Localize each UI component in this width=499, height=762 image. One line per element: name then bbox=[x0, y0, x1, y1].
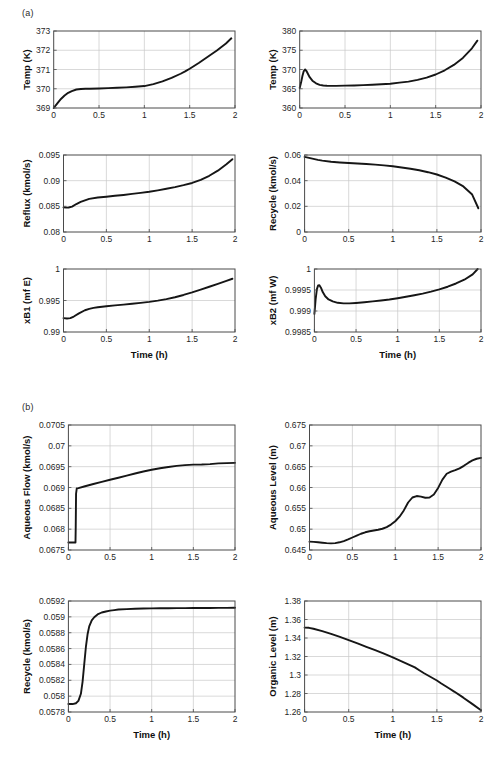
x-tick-label: 1.5 bbox=[186, 334, 198, 344]
y-axis-title: Reflux (kmol/s) bbox=[21, 159, 32, 227]
y-tick-label: 1 bbox=[55, 264, 60, 274]
x-tick-label: 0.5 bbox=[343, 234, 355, 244]
y-tick-label: 0.068 bbox=[44, 524, 66, 534]
x-tick-label: 2 bbox=[233, 234, 238, 244]
y-tick-label: 0.095 bbox=[39, 150, 61, 160]
figure-container: (a) (b) 00.511.52369370371372373Temp (K)… bbox=[0, 0, 499, 762]
series-recycle bbox=[305, 157, 479, 208]
y-tick-label: 0.0695 bbox=[39, 462, 65, 472]
panel-label-a: (a) bbox=[22, 8, 34, 18]
chart-xb1-mf-e: 00.511.520.990.9951xB1 (mf E)Time (h) bbox=[20, 262, 240, 362]
subplot-xb2: 00.511.520.99850.9990.99951xB2 (mf W)Tim… bbox=[266, 262, 486, 362]
subplot-reflux: 00.511.520.080.0850.090.095Reflux (kmol/… bbox=[20, 148, 240, 248]
tick-labels: 00.511.52369370371372373 bbox=[36, 26, 238, 120]
panel-label-b: (b) bbox=[22, 402, 34, 412]
x-tick-label: 1.5 bbox=[187, 552, 199, 562]
x-tick-label: 2 bbox=[233, 714, 238, 724]
y-axis-title: Recycle (kmol/s) bbox=[21, 619, 32, 694]
y-tick-label: 0.9995 bbox=[285, 285, 311, 295]
x-tick-label: 0.5 bbox=[339, 110, 351, 120]
series-temp bbox=[54, 38, 232, 108]
y-tick-label: 0.0584 bbox=[39, 659, 65, 669]
x-tick-label: 0 bbox=[66, 552, 71, 562]
chart-temp-k-left: 00.511.52369370371372373Temp (K) bbox=[20, 24, 240, 124]
y-tick-label: 0.02 bbox=[285, 201, 302, 211]
y-tick-label: 0.069 bbox=[44, 483, 66, 493]
tick-labels: 00.511.520.6450.650.6550.660.6650.670.67… bbox=[285, 420, 484, 562]
y-tick-label: 373 bbox=[36, 26, 50, 36]
subplot-recycle-a: 00.511.5200.020.040.06Recycle (kmol/s) bbox=[266, 148, 486, 248]
x-axis-title: Time (h) bbox=[131, 349, 168, 360]
y-tick-label: 0.0705 bbox=[39, 420, 65, 430]
chart-organic-level-m: 00.511.521.261.281.31.321.341.361.38Orga… bbox=[266, 594, 486, 742]
x-tick-label: 2 bbox=[479, 552, 484, 562]
tick-labels: 00.511.52360365370375380 bbox=[282, 26, 484, 120]
x-tick-label: 0.5 bbox=[104, 552, 116, 562]
x-tick-label: 2 bbox=[479, 334, 484, 344]
y-axis-title: xB1 (mf E) bbox=[21, 277, 32, 324]
y-tick-label: 0.07 bbox=[48, 441, 65, 451]
x-tick-label: 2 bbox=[479, 234, 484, 244]
x-tick-label: 1 bbox=[390, 714, 395, 724]
y-tick-label: 0.0588 bbox=[39, 628, 65, 638]
y-tick-label: 360 bbox=[282, 103, 296, 113]
y-tick-label: 0.67 bbox=[289, 441, 306, 451]
x-tick-label: 0.5 bbox=[100, 234, 112, 244]
gridlines bbox=[310, 425, 482, 550]
x-tick-label: 0.5 bbox=[104, 714, 116, 724]
chart-temp-k-right: 00.511.52360365370375380Temp (K) bbox=[266, 24, 486, 124]
y-axis-title: Temp (K) bbox=[267, 49, 278, 89]
y-tick-label: 1.28 bbox=[285, 689, 302, 699]
x-tick-label: 1.5 bbox=[430, 110, 442, 120]
x-tick-label: 1 bbox=[388, 110, 393, 120]
x-tick-label: 0 bbox=[61, 234, 66, 244]
x-tick-label: 0.5 bbox=[93, 110, 105, 120]
y-tick-label: 0.08 bbox=[43, 227, 60, 237]
y-tick-label: 0.99 bbox=[43, 327, 60, 337]
y-axis-title: Recycle (kmol/s) bbox=[267, 156, 278, 231]
series-group bbox=[305, 157, 479, 208]
x-tick-label: 1 bbox=[393, 552, 398, 562]
x-tick-label: 2 bbox=[479, 110, 484, 120]
y-tick-label: 0.0586 bbox=[39, 644, 65, 654]
gridlines bbox=[68, 425, 235, 550]
chart-xb2-mf-w: 00.511.520.99850.9990.99951xB2 (mf W)Tim… bbox=[266, 262, 486, 362]
gridlines bbox=[64, 155, 236, 232]
tick-labels: 00.511.5200.020.040.06 bbox=[285, 150, 484, 244]
y-tick-label: 369 bbox=[36, 103, 50, 113]
x-tick-label: 0 bbox=[302, 234, 307, 244]
series-group bbox=[314, 269, 477, 314]
y-tick-label: 0.085 bbox=[39, 201, 61, 211]
y-tick-label: 371 bbox=[36, 65, 50, 75]
x-tick-label: 2 bbox=[479, 714, 484, 724]
y-tick-label: 0.059 bbox=[44, 612, 66, 622]
y-tick-label: 370 bbox=[36, 84, 50, 94]
y-tick-label: 380 bbox=[282, 26, 296, 36]
chart-recycle-kmol-s-b: 00.511.520.05780.0580.05820.05840.05860.… bbox=[20, 594, 240, 742]
series-xb2 bbox=[314, 269, 477, 314]
x-tick-label: 1 bbox=[147, 334, 152, 344]
x-tick-label: 1 bbox=[142, 110, 147, 120]
chart-reflux-kmol-s: 00.511.520.080.0850.090.095Reflux (kmol/… bbox=[20, 148, 240, 248]
x-tick-label: 1 bbox=[395, 334, 400, 344]
y-tick-label: 370 bbox=[282, 65, 296, 75]
x-tick-label: 0.5 bbox=[100, 334, 112, 344]
y-tick-label: 0.995 bbox=[39, 296, 61, 306]
y-tick-label: 1.26 bbox=[285, 707, 302, 717]
y-tick-label: 0.0675 bbox=[39, 545, 65, 555]
x-tick-label: 1.5 bbox=[433, 334, 445, 344]
y-tick-label: 372 bbox=[36, 45, 50, 55]
series-reflux bbox=[64, 159, 233, 207]
y-tick-label: 1.32 bbox=[285, 652, 302, 662]
y-tick-label: 1.34 bbox=[285, 633, 302, 643]
x-tick-label: 1.5 bbox=[432, 552, 444, 562]
y-tick-label: 0.645 bbox=[285, 545, 307, 555]
x-tick-label: 0.5 bbox=[343, 714, 355, 724]
x-axis-title: Time (h) bbox=[379, 349, 416, 360]
x-tick-label: 1 bbox=[149, 552, 154, 562]
tick-labels: 00.511.520.080.0850.090.095 bbox=[39, 150, 238, 244]
y-tick-label: 0.04 bbox=[285, 176, 302, 186]
subplot-aqueous-flow: 00.511.520.06750.0680.06850.0690.06950.0… bbox=[20, 418, 240, 566]
y-tick-label: 1 bbox=[306, 264, 311, 274]
y-axis-title: Aqueous Flow (kmol/s) bbox=[21, 436, 32, 540]
